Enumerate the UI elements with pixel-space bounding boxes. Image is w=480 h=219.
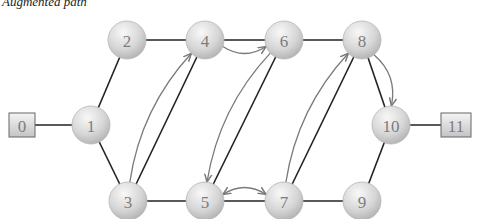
node-6: 6 — [265, 21, 303, 59]
node-label: 8 — [358, 32, 367, 51]
node-7: 7 — [265, 182, 303, 219]
node-label: 4 — [201, 32, 210, 51]
node-label: 1 — [87, 117, 96, 136]
node-label: 3 — [124, 193, 133, 212]
augment-arrow-4-6 — [223, 47, 266, 54]
augment-arrow-3-4 — [130, 53, 192, 182]
graph-canvas: 01234567891011 — [0, 0, 480, 219]
node-0: 0 — [9, 113, 35, 137]
node-label: 11 — [448, 117, 464, 136]
edge-5-6 — [205, 40, 284, 201]
node-11: 11 — [441, 113, 471, 137]
node-label: 7 — [280, 193, 289, 212]
node-1: 1 — [72, 106, 110, 144]
node-10: 10 — [372, 106, 410, 144]
node-label: 9 — [358, 193, 367, 212]
node-label: 0 — [18, 117, 27, 136]
node-3: 3 — [109, 182, 147, 219]
node-5: 5 — [186, 182, 224, 219]
augment-arrow-5-7 — [223, 187, 266, 194]
augment-arrow-6-5 — [207, 53, 270, 182]
node-2: 2 — [108, 21, 146, 59]
node-label: 6 — [280, 32, 289, 51]
node-label: 10 — [383, 117, 400, 136]
nodes-layer: 01234567891011 — [9, 21, 471, 219]
edge-7-8 — [284, 40, 362, 201]
node-4: 4 — [186, 21, 224, 59]
node-label: 5 — [201, 193, 210, 212]
node-9: 9 — [343, 182, 381, 219]
augment-arrow-7-8 — [286, 53, 348, 182]
edge-3-4 — [128, 40, 205, 201]
augmenting-path-layer — [130, 47, 393, 195]
augment-arrow-8-10 — [374, 55, 393, 106]
node-label: 2 — [123, 32, 132, 51]
node-8: 8 — [343, 21, 381, 59]
